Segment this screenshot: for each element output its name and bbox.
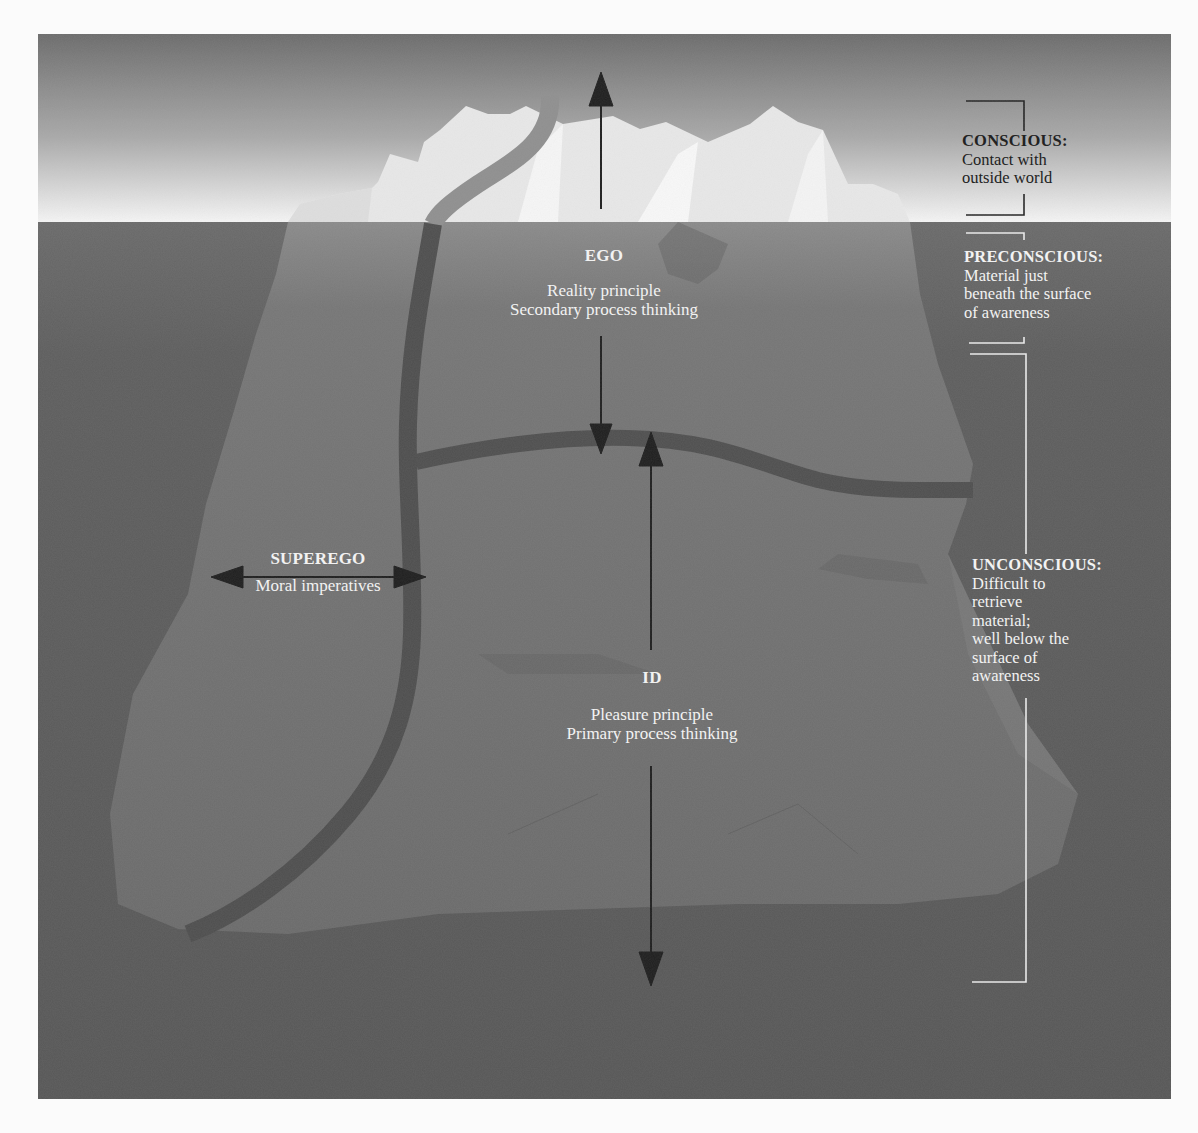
iceberg-diagram: EGO Reality principle Secondary process … xyxy=(38,34,1171,1099)
superego-line-1: Moral imperatives xyxy=(255,576,380,595)
conscious-label: CONSCIOUS: Contact with outside world xyxy=(962,132,1068,188)
unconscious-label: UNCONSCIOUS: Difficult to retrieve mater… xyxy=(972,556,1102,686)
unconscious-line-6: awareness xyxy=(972,667,1102,686)
preconscious-title: PRECONSCIOUS: xyxy=(964,248,1103,267)
superego-label: SUPEREGO Moral imperatives xyxy=(255,549,380,595)
conscious-title: CONSCIOUS: xyxy=(962,132,1068,151)
preconscious-line-1: Material just xyxy=(964,267,1103,286)
ego-line-2: Secondary process thinking xyxy=(510,300,698,319)
conscious-line-1: Contact with xyxy=(962,151,1068,170)
unconscious-line-4: well below the xyxy=(972,630,1102,649)
id-line-1: Pleasure principle xyxy=(567,705,738,724)
unconscious-line-1: Difficult to xyxy=(972,575,1102,594)
unconscious-line-3: material; xyxy=(972,612,1102,631)
id-title: ID xyxy=(567,668,738,687)
preconscious-line-3: of awareness xyxy=(964,304,1103,323)
superego-title: SUPEREGO xyxy=(255,549,380,568)
unconscious-title: UNCONSCIOUS: xyxy=(972,556,1102,575)
preconscious-label: PRECONSCIOUS: Material just beneath the … xyxy=(964,248,1103,322)
preconscious-line-2: beneath the surface xyxy=(964,285,1103,304)
unconscious-line-5: surface of xyxy=(972,649,1102,668)
conscious-line-2: outside world xyxy=(962,169,1068,188)
ego-line-1: Reality principle xyxy=(510,281,698,300)
unconscious-line-2: retrieve xyxy=(972,593,1102,612)
id-line-2: Primary process thinking xyxy=(567,724,738,743)
ego-title: EGO xyxy=(510,246,698,265)
ego-label: EGO Reality principle Secondary process … xyxy=(510,246,698,319)
id-label: ID Pleasure principle Primary process th… xyxy=(567,668,738,743)
